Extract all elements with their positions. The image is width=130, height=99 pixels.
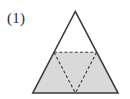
figure-container: (1)	[0, 0, 130, 99]
triangle-diagram	[0, 0, 130, 99]
shaded-trapezoid-region	[33, 52, 118, 93]
